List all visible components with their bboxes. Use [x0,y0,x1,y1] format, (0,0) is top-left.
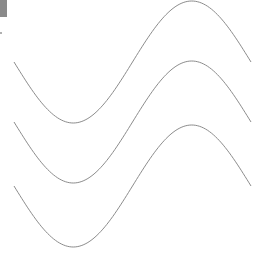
wave-1 [14,1,251,123]
wave-3 [14,125,251,247]
waves-canvas [0,0,267,259]
wave-2 [14,61,251,183]
